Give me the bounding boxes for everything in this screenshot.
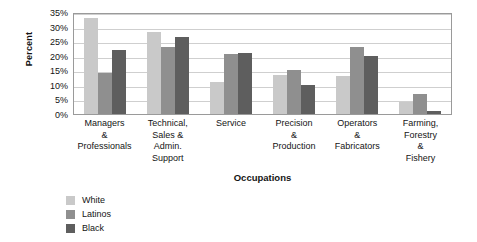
x-tick-label-line: Forestry <box>390 130 451 142</box>
bar-latinos <box>224 54 238 114</box>
bar-latinos <box>413 94 427 114</box>
x-tick-label-line: Fishery <box>390 153 451 165</box>
bar-group <box>200 14 263 114</box>
bar-group <box>262 14 325 114</box>
bar-black <box>175 37 189 114</box>
chart-figure: Percent 0%5%10%15%20%25%30%35% Managers&… <box>0 0 477 242</box>
bar-black <box>238 53 252 114</box>
x-tick-label-line: & <box>390 141 451 153</box>
bar-white <box>210 82 224 114</box>
x-tick-label-line: Precision <box>264 118 325 130</box>
bar-group <box>137 14 200 114</box>
x-tick-label-line: Support <box>137 153 198 165</box>
x-tick-label: Farming,Forestry&Fishery <box>389 118 452 164</box>
y-tick-label: 35% <box>32 9 68 18</box>
x-axis-tick-labels: Managers&ProfessionalsTechnical,Sales &A… <box>73 118 452 164</box>
bar-groups <box>74 14 451 114</box>
bar-latinos <box>287 70 301 114</box>
x-tick-label-line: Sales & <box>137 130 198 142</box>
legend-swatch-icon <box>66 196 75 205</box>
x-tick-label-line: & <box>264 130 325 142</box>
bar-latinos <box>350 47 364 114</box>
bar-white <box>147 32 161 114</box>
x-tick-label-line: Admin. <box>137 141 198 153</box>
x-tick-label-line: Managers <box>74 118 135 130</box>
y-tick-label: 25% <box>32 38 68 47</box>
bar-black <box>364 56 378 114</box>
x-tick-label: Technical,Sales &Admin.Support <box>136 118 199 164</box>
y-tick-label: 5% <box>32 96 68 105</box>
x-tick-label-line: & <box>327 130 388 142</box>
bar-white <box>84 18 98 114</box>
x-tick-label: Operators&Fabricators <box>326 118 389 164</box>
x-tick-label-line: Production <box>264 141 325 153</box>
bar-black <box>427 111 441 114</box>
bar-white <box>336 76 350 114</box>
legend-label: White <box>82 195 105 205</box>
plot-area <box>73 13 452 115</box>
legend-swatch-icon <box>66 210 75 219</box>
x-tick-label-line: Operators <box>327 118 388 130</box>
legend-swatch-icon <box>66 224 75 233</box>
x-tick-label-line: Professionals <box>74 141 135 153</box>
bar-white <box>273 75 287 114</box>
x-tick-label-line: & <box>74 130 135 142</box>
x-tick-label-line: Farming, <box>390 118 451 130</box>
chart-legend: WhiteLatinosBlack <box>66 194 111 234</box>
bar-black <box>112 50 126 114</box>
bar-group <box>74 14 137 114</box>
x-tick-label: Precision&Production <box>263 118 326 164</box>
bar-black <box>301 85 315 114</box>
x-tick-label-line: Fabricators <box>327 141 388 153</box>
bar-group <box>388 14 451 114</box>
y-tick-label: 20% <box>32 52 68 61</box>
x-axis-title: Occupations <box>73 172 452 183</box>
legend-item-white[interactable]: White <box>66 194 111 206</box>
legend-item-latinos[interactable]: Latinos <box>66 208 111 220</box>
bar-group <box>325 14 388 114</box>
bar-latinos <box>98 73 112 114</box>
y-tick-label: 30% <box>32 23 68 32</box>
y-tick-label: 10% <box>32 81 68 90</box>
legend-label: Black <box>82 223 104 233</box>
legend-item-black[interactable]: Black <box>66 222 111 234</box>
x-tick-label: Managers&Professionals <box>73 118 136 164</box>
y-tick-label: 15% <box>32 67 68 76</box>
x-tick-label-line: Technical, <box>137 118 198 130</box>
x-tick-label-line: Service <box>200 118 261 130</box>
bar-latinos <box>161 47 175 114</box>
y-tick-label: 0% <box>32 111 68 120</box>
legend-label: Latinos <box>82 209 111 219</box>
x-tick-label: Service <box>199 118 262 164</box>
y-axis-tick-labels: 0%5%10%15%20%25%30%35% <box>32 13 68 115</box>
bar-white <box>399 102 413 114</box>
